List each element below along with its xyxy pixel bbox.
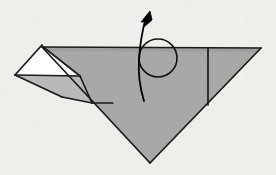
edge-top-edge: [42, 47, 261, 48]
edge-white-flap-bottom-edge: [15, 75, 80, 76]
large-folded-triangle: [42, 47, 261, 163]
fold-figure-svg: [0, 0, 276, 175]
fold-arrow-head-icon: [141, 11, 152, 27]
origami-diagram-canvas: Origami fold step diagram Folded paper m…: [0, 0, 276, 175]
